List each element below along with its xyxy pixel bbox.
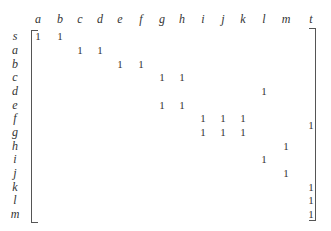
column-label: b [57,13,63,25]
column-label: g [159,13,165,25]
row-label: k [12,181,17,193]
matrix-entry: 1 [179,100,185,111]
matrix-entry: 1 [200,113,206,124]
row-label: f [13,112,16,124]
matrix-entry: 1 [240,127,246,138]
row-label: j [13,167,16,179]
row-label: m [11,208,20,220]
matrix-entry: 1 [57,31,63,42]
column-label: j [221,13,224,25]
matrix-entry: 1 [220,127,226,138]
row-label: e [12,99,17,111]
column-label: k [240,13,245,25]
column-label: i [201,13,204,25]
column-label: m [282,13,291,25]
row-label: h [12,140,18,152]
column-label: h [179,13,185,25]
column-label: l [262,13,265,25]
right-bracket [309,28,316,221]
matrix-entry: 1 [261,86,267,97]
matrix-entry: 1 [261,154,267,165]
row-label: d [12,85,18,97]
column-label: d [97,13,103,25]
column-label: f [139,13,142,25]
row-label: g [12,126,18,138]
matrix-entry: 1 [97,45,103,56]
matrix-entry: 1 [283,141,289,152]
matrix-entry: 1 [117,59,123,70]
column-label: c [77,13,82,25]
matrix-entry: 1 [283,168,289,179]
matrix-entry: 1 [200,127,206,138]
matrix-entry: 1 [77,45,83,56]
matrix-entry: 1 [220,113,226,124]
row-label: l [13,194,16,206]
column-label: a [35,13,41,25]
matrix-entry: 1 [138,59,144,70]
row-label: s [13,30,18,42]
row-label: a [12,44,18,56]
column-label: t [309,13,312,25]
left-bracket [31,30,38,223]
matrix-entry: 1 [240,113,246,124]
matrix-entry: 1 [159,100,165,111]
matrix-entry: 1 [159,72,165,83]
row-label: b [12,58,18,70]
column-label: e [117,13,122,25]
row-label: i [13,153,16,165]
row-label: c [12,71,17,83]
matrix-entry: 1 [179,72,185,83]
